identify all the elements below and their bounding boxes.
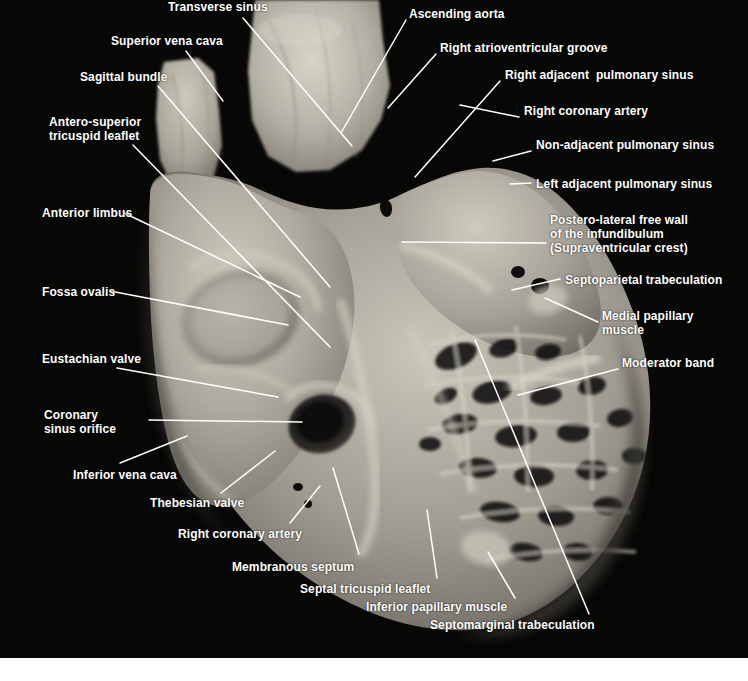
label-septoparietal-trabeculation: Septoparietal trabeculation — [565, 273, 722, 287]
label-eustachian-valve: Eustachian valve — [42, 352, 141, 366]
label-anterior-limbus: Anterior limbus — [42, 206, 132, 220]
label-moderator-band: Moderator band — [622, 356, 714, 370]
label-non-adjacent-pulmonary-sinus: Non-adjacent pulmonary sinus — [536, 138, 714, 152]
label-septal-tricuspid-leaflet: Septal tricuspid leaflet — [300, 582, 430, 596]
label-right-coronary-artery-right: Right coronary artery — [524, 104, 648, 118]
label-right-atrioventricular-groove: Right atrioventricular groove — [440, 41, 608, 55]
label-postero-lateral-free-wall: Postero-lateral free wall of the infundi… — [550, 213, 688, 255]
bottom-white-margin — [0, 658, 748, 681]
label-coronary-sinus-orifice: Coronary sinus orifice — [44, 408, 116, 436]
label-inferior-vena-cava: Inferior vena cava — [73, 468, 177, 482]
specimen-photograph: Transverse sinusSuperior vena cavaSagitt… — [0, 0, 748, 658]
label-sagittal-bundle: Sagittal bundle — [80, 70, 168, 84]
label-antero-superior-tricuspid-leaflet: Antero-superior tricuspid leaflet — [49, 115, 141, 143]
label-ascending-aorta: Ascending aorta — [409, 7, 505, 21]
label-medial-papillary-muscle: Medial papillary muscle — [602, 309, 694, 337]
label-transverse-sinus: Transverse sinus — [168, 0, 268, 14]
label-fossa-ovalis: Fossa ovalis — [42, 285, 115, 299]
label-membranous-septum: Membranous septum — [232, 560, 354, 574]
label-right-adjacent-pulmonary-sinus: Right adjacent pulmonary sinus — [505, 68, 693, 82]
label-septomarginal-trabeculation: Septomarginal trabeculation — [430, 618, 595, 632]
label-superior-vena-cava: Superior vena cava — [111, 34, 223, 48]
anatomy-figure: Transverse sinusSuperior vena cavaSagitt… — [0, 0, 748, 681]
label-right-coronary-artery-left: Right coronary artery — [178, 527, 302, 541]
label-thebesian-valve: Thebesian valve — [150, 496, 244, 510]
label-left-adjacent-pulmonary-sinus: Left adjacent pulmonary sinus — [536, 177, 712, 191]
label-inferior-papillary-muscle: Inferior papillary muscle — [366, 600, 507, 614]
